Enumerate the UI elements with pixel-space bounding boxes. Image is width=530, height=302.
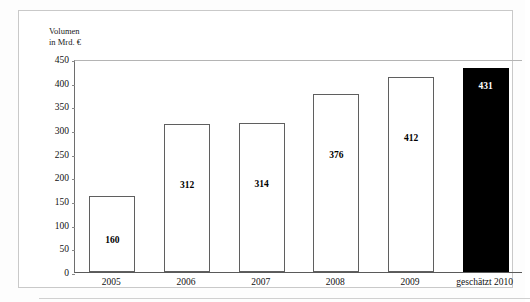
bar-value-label: 431 bbox=[464, 81, 508, 91]
y-axis-tick-label: 50 bbox=[60, 244, 70, 254]
y-axis-tick-label: 400 bbox=[55, 79, 69, 89]
bar-value-label: 160 bbox=[90, 235, 134, 245]
x-axis-label: 2008 bbox=[298, 277, 373, 287]
watermark-text bbox=[139, 31, 439, 53]
y-axis-title: Volumen in Mrd. € bbox=[49, 26, 81, 48]
y-axis-tick-mark bbox=[72, 227, 75, 228]
y-axis-tick-label: 150 bbox=[55, 197, 69, 207]
bar: 376 bbox=[313, 94, 359, 272]
x-axis-label: 2005 bbox=[74, 277, 149, 287]
y-axis-tick-mark bbox=[72, 203, 75, 204]
x-axis-label: 2006 bbox=[149, 277, 224, 287]
y-axis-tick-mark bbox=[72, 274, 75, 275]
bar: 160 bbox=[89, 196, 135, 272]
y-axis-tick-label: 300 bbox=[55, 126, 69, 136]
y-axis-tick-label: 450 bbox=[55, 55, 69, 65]
bar-value-label: 376 bbox=[314, 150, 358, 160]
plot-area: 450400350300250200150100500 160312314376… bbox=[74, 60, 522, 273]
y-axis-tick-mark bbox=[72, 156, 75, 157]
y-axis-tick-label: 0 bbox=[64, 268, 69, 278]
bar: 412 bbox=[388, 77, 434, 272]
bar-value-label: 412 bbox=[389, 133, 433, 143]
y-axis-tick-mark bbox=[72, 179, 75, 180]
x-axis-labels: 20052006200720082009geschätzt 2010 bbox=[74, 277, 522, 295]
x-axis-label: 2007 bbox=[223, 277, 298, 287]
x-axis-label: geschätzt 2010 bbox=[447, 277, 522, 287]
y-axis-tick-mark bbox=[72, 85, 75, 86]
y-axis-tick-label: 200 bbox=[55, 173, 69, 183]
chart-frame: Volumen in Mrd. € 4504003503002502001501… bbox=[18, 10, 513, 288]
y-axis-title-line-1: Volumen bbox=[49, 26, 81, 37]
y-axis-tick-mark bbox=[72, 132, 75, 133]
bar: 431 bbox=[463, 68, 509, 272]
frame-baseline bbox=[39, 298, 530, 299]
y-axis-title-line-2: in Mrd. € bbox=[49, 37, 81, 48]
y-axis-tick-mark bbox=[72, 61, 75, 62]
bar-value-label: 314 bbox=[240, 179, 284, 189]
y-axis-tick-mark bbox=[72, 250, 75, 251]
x-axis-label: 2009 bbox=[373, 277, 448, 287]
bar-value-label: 312 bbox=[165, 180, 209, 190]
y-axis-tick-label: 100 bbox=[55, 221, 69, 231]
y-axis-tick-mark bbox=[72, 108, 75, 109]
y-axis-tick-label: 350 bbox=[55, 102, 69, 112]
bar: 312 bbox=[164, 124, 210, 272]
bar: 314 bbox=[239, 123, 285, 272]
y-axis-tick-label: 250 bbox=[55, 150, 69, 160]
